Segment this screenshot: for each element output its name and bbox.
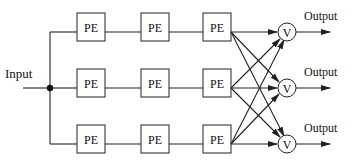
pe-label: PE [210, 21, 224, 35]
voter-crossbar [231, 32, 284, 144]
pe-label: PE [210, 77, 224, 91]
pe-label: PE [84, 77, 98, 91]
pe-label: PE [84, 133, 98, 147]
tmr-pipeline-diagram: Input PE PE PE PE PE PE PE PE PE [0, 0, 355, 165]
row-2: PE PE PE [77, 69, 231, 97]
pe-label: PE [148, 21, 162, 35]
row-3: PE PE PE [77, 125, 231, 153]
row-1: PE PE PE [77, 13, 231, 41]
output-label: Output [304, 121, 338, 135]
voter-1: V Output [278, 9, 338, 41]
voter-2: V Output [278, 65, 338, 97]
pe-label: PE [84, 21, 98, 35]
pe-label: PE [210, 133, 224, 147]
pe-label: PE [148, 133, 162, 147]
output-label: Output [304, 9, 338, 23]
voter-3: V Output [278, 121, 338, 153]
voter-label: V [283, 138, 292, 152]
input-label: Input [5, 66, 33, 81]
voter-label: V [283, 82, 292, 96]
output-label: Output [304, 65, 338, 79]
pe-label: PE [148, 77, 162, 91]
voter-label: V [283, 26, 292, 40]
